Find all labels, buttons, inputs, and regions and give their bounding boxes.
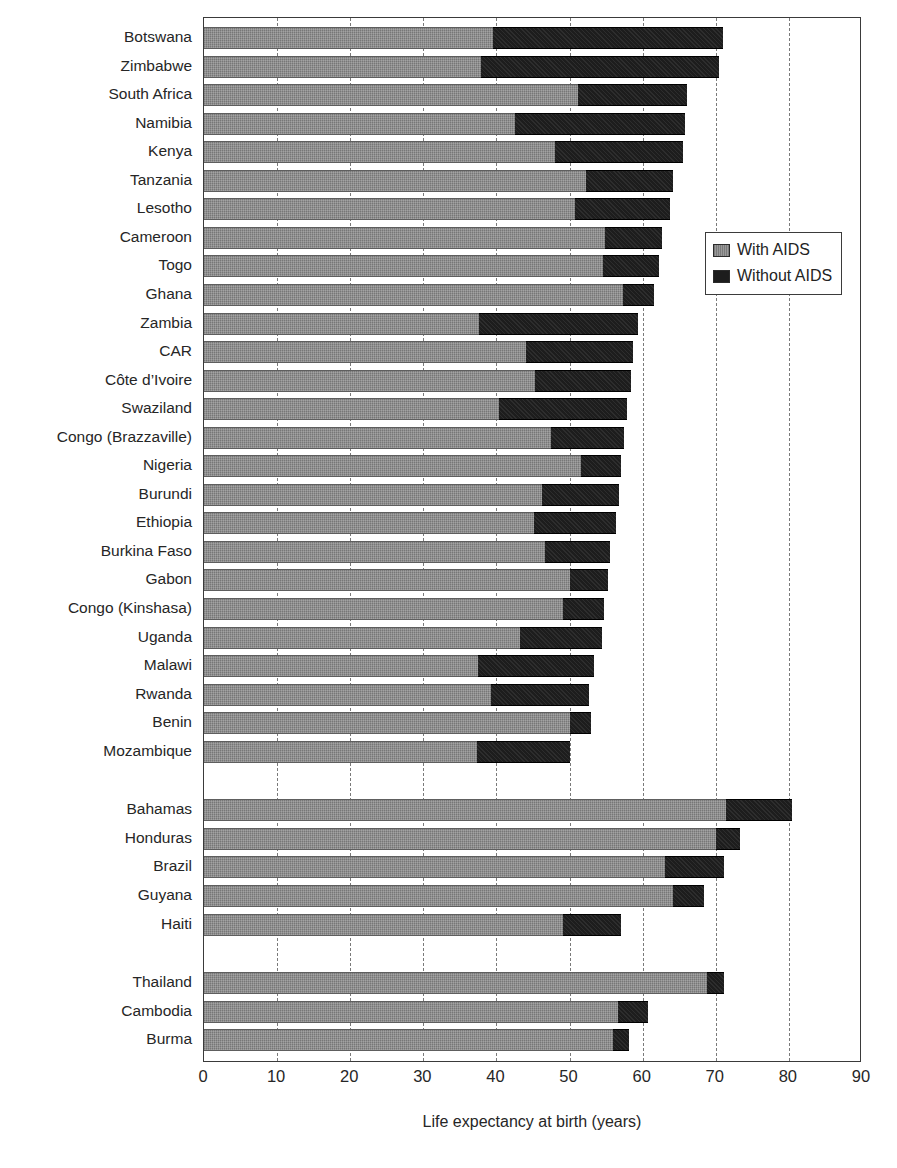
bar-row[interactable]	[204, 598, 862, 620]
legend-item-with-aids: With AIDS	[713, 237, 832, 263]
category-label: Côte d’Ivoire	[6, 372, 192, 388]
x-tick-label-50: 50	[559, 1068, 577, 1085]
category-label: Mozambique	[6, 743, 192, 759]
bar-segment-with-aids	[204, 455, 581, 477]
bar-row[interactable]	[204, 914, 862, 936]
bar-segment-with-aids	[204, 313, 479, 335]
bar-row[interactable]	[204, 1001, 862, 1023]
bar-row[interactable]	[204, 198, 862, 220]
bar-row[interactable]	[204, 84, 862, 106]
bar-row[interactable]	[204, 398, 862, 420]
x-tick-label-60: 60	[632, 1068, 650, 1085]
x-tick-label-20: 20	[340, 1068, 358, 1085]
bar-row[interactable]	[204, 170, 862, 192]
bar-segment-with-aids	[204, 56, 481, 78]
bar-row[interactable]	[204, 828, 862, 850]
legend-label-without-aids: Without AIDS	[737, 268, 832, 284]
bar-segment-without-aids	[563, 914, 621, 936]
x-tick-label-70: 70	[706, 1068, 724, 1085]
bar-segment-with-aids	[204, 84, 578, 106]
bar-row[interactable]	[204, 370, 862, 392]
bar-row[interactable]	[204, 627, 862, 649]
bar-segment-with-aids	[204, 856, 665, 878]
bar-segment-without-aids	[526, 341, 633, 363]
bar-segment-with-aids	[204, 255, 603, 277]
bar-segment-without-aids	[545, 541, 610, 563]
category-label: Burundi	[6, 486, 192, 502]
bar-row[interactable]	[204, 885, 862, 907]
bar-segment-with-aids	[204, 227, 605, 249]
bar-segment-without-aids	[493, 27, 723, 49]
x-tick-label-10: 10	[267, 1068, 285, 1085]
bar-segment-without-aids	[673, 885, 704, 907]
category-label: Tanzania	[6, 172, 192, 188]
category-label: Ghana	[6, 286, 192, 302]
bar-segment-with-aids	[204, 398, 499, 420]
bar-segment-without-aids	[520, 627, 602, 649]
x-tick-label-30: 30	[413, 1068, 431, 1085]
bar-row[interactable]	[204, 455, 862, 477]
bar-segment-with-aids	[204, 370, 535, 392]
bar-row[interactable]	[204, 541, 862, 563]
category-label: Guyana	[6, 887, 192, 903]
category-label: CAR	[6, 343, 192, 359]
bar-segment-without-aids	[707, 972, 724, 994]
bar-segment-without-aids	[603, 255, 659, 277]
bar-row[interactable]	[204, 113, 862, 135]
legend-swatch-with-aids	[713, 244, 730, 257]
x-tick-label-0: 0	[198, 1068, 207, 1085]
bar-row[interactable]	[204, 427, 862, 449]
category-label: Lesotho	[6, 200, 192, 216]
category-label: Zambia	[6, 315, 192, 331]
legend-item-without-aids: Without AIDS	[713, 263, 832, 289]
category-label: Haiti	[6, 916, 192, 932]
bar-row[interactable]	[204, 741, 862, 763]
bar-row[interactable]	[204, 799, 862, 821]
bar-segment-without-aids	[551, 427, 623, 449]
bar-segment-with-aids	[204, 684, 491, 706]
bar-segment-without-aids	[478, 655, 594, 677]
bar-row[interactable]	[204, 569, 862, 591]
bar-row[interactable]	[204, 684, 862, 706]
life-expectancy-chart: BotswanaZimbabweSouth AfricaNamibiaKenya…	[0, 0, 897, 1168]
bar-segment-without-aids	[542, 484, 619, 506]
category-label: Uganda	[6, 629, 192, 645]
category-label: Burkina Faso	[6, 543, 192, 559]
category-label: Honduras	[6, 830, 192, 846]
bar-row[interactable]	[204, 27, 862, 49]
bar-row[interactable]	[204, 712, 862, 734]
category-label: Congo (Kinshasa)	[6, 600, 192, 616]
bar-segment-with-aids	[204, 141, 555, 163]
bar-row[interactable]	[204, 341, 862, 363]
category-label: Nigeria	[6, 457, 192, 473]
bar-segment-with-aids	[204, 655, 478, 677]
bar-segment-with-aids	[204, 914, 563, 936]
bar-row[interactable]	[204, 856, 862, 878]
category-label: Malawi	[6, 657, 192, 673]
bar-segment-without-aids	[570, 569, 608, 591]
x-tick-label-80: 80	[779, 1068, 797, 1085]
bar-segment-without-aids	[499, 398, 627, 420]
bar-segment-without-aids	[586, 170, 673, 192]
bar-segment-without-aids	[481, 56, 719, 78]
bar-segment-with-aids	[204, 799, 726, 821]
bar-row[interactable]	[204, 313, 862, 335]
x-tick-label-40: 40	[486, 1068, 504, 1085]
bar-segment-with-aids	[204, 284, 623, 306]
bar-segment-with-aids	[204, 27, 493, 49]
bar-row[interactable]	[204, 972, 862, 994]
category-label: Benin	[6, 714, 192, 730]
bar-segment-with-aids	[204, 484, 542, 506]
category-label: Congo (Brazzaville)	[6, 429, 192, 445]
bar-segment-with-aids	[204, 1029, 613, 1051]
bar-row[interactable]	[204, 512, 862, 534]
bar-row[interactable]	[204, 484, 862, 506]
bar-segment-without-aids	[618, 1001, 648, 1023]
category-label: Ethiopia	[6, 514, 192, 530]
bar-row[interactable]	[204, 141, 862, 163]
category-axis-labels: BotswanaZimbabweSouth AfricaNamibiaKenya…	[0, 0, 192, 1068]
bar-row[interactable]	[204, 655, 862, 677]
bar-row[interactable]	[204, 1029, 862, 1051]
category-label: Botswana	[6, 29, 192, 45]
bar-row[interactable]	[204, 56, 862, 78]
